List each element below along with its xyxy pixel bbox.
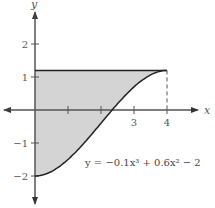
x-tick-label: 3 xyxy=(131,117,137,128)
y-tick-label: −1 xyxy=(13,138,28,149)
y-tick-label: 1 xyxy=(22,72,28,83)
equation-label: y = −0.1x³ + 0.6x² − 2 xyxy=(84,157,201,168)
axes xyxy=(4,12,198,204)
y-axis-label: y xyxy=(30,0,38,11)
y-tick-label: 2 xyxy=(22,39,28,50)
y-tick-label: −2 xyxy=(13,171,28,182)
region-diagram: 3421−1−2 x y y = −0.1x³ + 0.6x² − 2 xyxy=(0,0,215,208)
x-axis-label: x xyxy=(204,104,211,117)
x-tick-label: 4 xyxy=(164,117,170,128)
